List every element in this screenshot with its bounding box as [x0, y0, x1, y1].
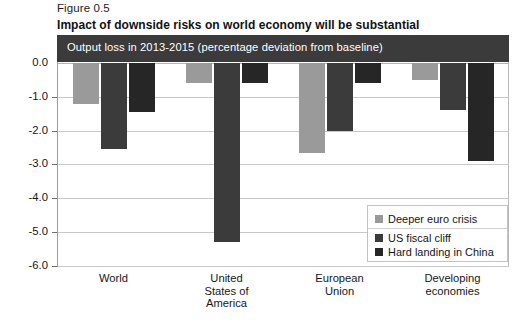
y-axis-tick-label: -1.0 — [2, 90, 48, 102]
y-axis-tick-mark — [52, 266, 57, 267]
bar — [101, 63, 127, 149]
bar — [73, 63, 99, 104]
category-label-line: European — [283, 272, 396, 285]
y-axis-tick-label: -4.0 — [2, 191, 48, 203]
x-axis-category-label: World — [57, 272, 170, 285]
figure-number: Figure 0.5 — [57, 2, 110, 14]
y-axis-tick-label: -3.0 — [2, 157, 48, 169]
legend-item-hard-landing-in-china: Hard landing in China — [375, 246, 494, 258]
legend-item-label: US fiscal cliff — [388, 232, 451, 244]
y-axis-tick-label: -2.0 — [2, 124, 48, 136]
legend-divider — [368, 228, 507, 229]
category-label-line: United — [170, 272, 283, 285]
y-axis-tick-mark — [52, 164, 57, 165]
category-label-line: States of — [170, 285, 283, 298]
category-label-line: Developing — [396, 272, 509, 285]
bar — [327, 63, 353, 131]
legend-swatch-icon — [375, 234, 383, 242]
legend-swatch-icon — [375, 215, 383, 223]
bar — [440, 63, 466, 110]
legend-item-deeper-euro-crisis: Deeper euro crisis — [375, 213, 477, 225]
bar — [355, 63, 381, 83]
bar — [186, 63, 212, 83]
x-axis-category-label: UnitedStates ofAmerica — [170, 272, 283, 310]
y-axis-line — [57, 35, 58, 267]
chart-banner-label: Output loss in 2013-2015 (percentage dev… — [67, 41, 383, 53]
category-label-line: economies — [396, 285, 509, 298]
chart-banner: Output loss in 2013-2015 (percentage dev… — [57, 35, 509, 62]
y-axis-tick-label: 0.0 — [2, 56, 48, 68]
bar — [412, 63, 438, 80]
bar — [129, 63, 155, 112]
x-axis-category-label: EuropeanUnion — [283, 272, 396, 297]
bar — [214, 63, 240, 242]
y-axis-tick-mark — [52, 198, 57, 199]
legend-swatch-icon — [375, 248, 383, 256]
y-axis-tick-label: -6.0 — [2, 259, 48, 271]
legend-item-label: Deeper euro crisis — [388, 213, 477, 225]
figure-title: Impact of downside risks on world econom… — [57, 18, 419, 32]
category-label-line: Union — [283, 285, 396, 298]
bar — [468, 63, 494, 161]
chart-legend: Deeper euro crisis US fiscal cliff Hard … — [367, 205, 508, 262]
category-label-line: World — [57, 272, 170, 285]
x-axis-category-label: Developingeconomies — [396, 272, 509, 297]
bar — [242, 63, 268, 83]
category-label-line: America — [170, 297, 283, 310]
y-axis-tick-label: -5.0 — [2, 225, 48, 237]
bar — [299, 63, 325, 153]
figure-container: Figure 0.5 Impact of downside risks on w… — [0, 0, 525, 326]
y-axis-tick-mark — [52, 131, 57, 132]
y-axis-tick-mark — [52, 97, 57, 98]
y-axis-tick-mark — [52, 232, 57, 233]
legend-item-label: Hard landing in China — [388, 246, 494, 258]
legend-item-us-fiscal-cliff: US fiscal cliff — [375, 232, 451, 244]
